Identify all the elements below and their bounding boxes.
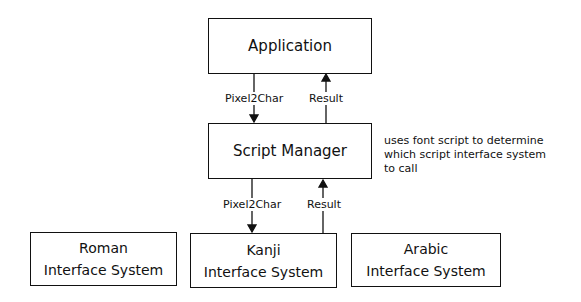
roman-interface-box: Roman Interface System (30, 232, 177, 286)
arabic-line2: Interface System (366, 260, 485, 282)
application-box: Application (208, 18, 372, 74)
kanji-line1: Kanji (246, 239, 280, 261)
roman-line2: Interface System (44, 259, 163, 281)
edge-label-sm-to-kanji: Pixel2Char (222, 198, 282, 211)
annotation-line3: to call (384, 162, 546, 176)
application-label: Application (248, 35, 332, 57)
kanji-interface-box: Kanji Interface System (190, 233, 337, 288)
edge-label-kanji-to-sm: Result (306, 198, 342, 211)
script-manager-box: Script Manager (208, 123, 372, 179)
arabic-line1: Arabic (404, 238, 448, 260)
kanji-line2: Interface System (204, 261, 323, 283)
annotation-line2: which script interface system (384, 148, 546, 162)
edge-label-sm-to-app: Result (308, 92, 344, 105)
script-manager-annotation: uses font script to determine which scri… (384, 134, 546, 176)
roman-line1: Roman (79, 237, 128, 259)
annotation-line1: uses font script to determine (384, 134, 546, 148)
arabic-interface-box: Arabic Interface System (351, 233, 501, 287)
edge-label-app-to-sm: Pixel2Char (224, 92, 284, 105)
script-manager-label: Script Manager (233, 140, 347, 162)
